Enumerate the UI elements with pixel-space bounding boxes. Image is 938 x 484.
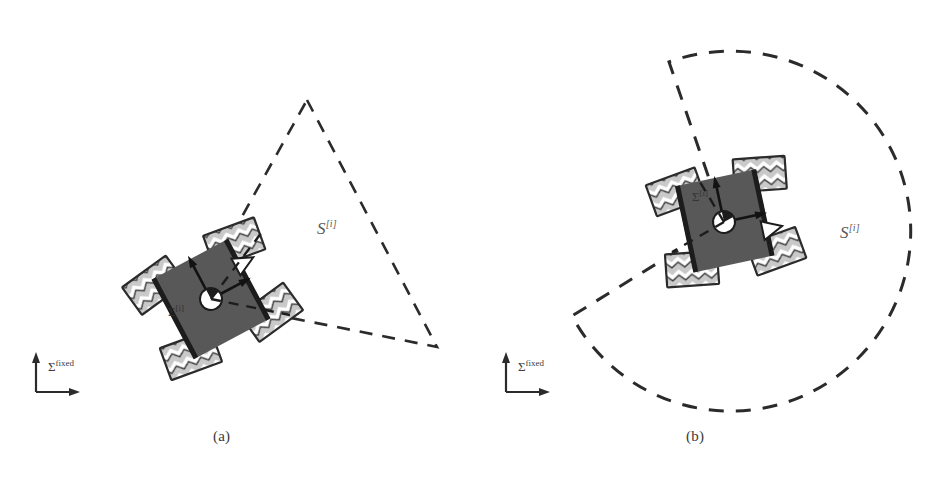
region-label-b: S[i] [840,222,860,243]
panel-a [32,100,437,396]
robot-frame-label-b: Σ[i] [692,188,708,205]
caption-b: (b) [686,428,704,445]
caption-a: (a) [213,428,230,445]
region-label-a: S[i] [317,218,337,239]
robot-frame-label-a: Σ[i] [168,303,184,320]
robot-b [644,149,808,295]
world-frame-label-a: Σfixed [48,358,74,375]
figure-canvas [0,0,938,484]
diagram-svg [0,0,938,484]
world-frame-label-b: Σfixed [518,358,544,375]
